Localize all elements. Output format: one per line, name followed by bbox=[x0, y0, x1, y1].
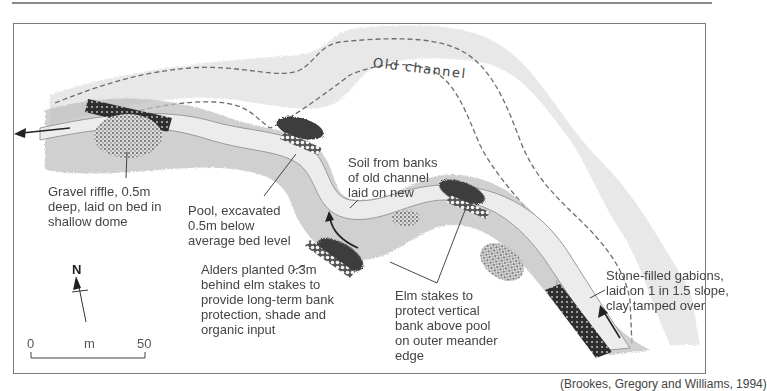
annotation-line: deep, laid on bed in bbox=[48, 199, 161, 214]
annotation-line: protection, shade and bbox=[201, 307, 334, 322]
alders-annotation: Alders planted 0.3m behind elm stakes to… bbox=[201, 262, 334, 337]
annotation-line: organic input bbox=[201, 322, 334, 337]
gravel-riffle-mid bbox=[392, 210, 420, 226]
gravel-riffle-annotation: Gravel riffle, 0.5m deep, laid on bed in… bbox=[48, 184, 161, 229]
scale-end: 50 bbox=[137, 336, 151, 351]
annotation-line: 0.5m below bbox=[188, 218, 291, 233]
annotation-line: Gravel riffle, 0.5m bbox=[48, 184, 161, 199]
annotation-line: average bed level bbox=[188, 233, 291, 248]
elm-stakes-annotation: Elm stakes to protect vertical bank abov… bbox=[395, 288, 498, 363]
annotation-line: Elm stakes to bbox=[395, 288, 498, 303]
annotation-line: Pool, excavated bbox=[188, 203, 291, 218]
north-arrowhead bbox=[73, 276, 81, 290]
annotation-line: Soil from banks bbox=[348, 155, 438, 170]
annotation-line: clay tamped over bbox=[606, 298, 729, 313]
annotation-line: shallow dome bbox=[48, 214, 161, 229]
scale-bar bbox=[31, 352, 145, 358]
annotation-line: Alders planted 0.3m bbox=[201, 262, 334, 277]
annotation-line: Stone-filled gabions, bbox=[606, 268, 729, 283]
annotation-line: protect vertical bbox=[395, 303, 498, 318]
annotation-line: laid on 1 in 1.5 slope, bbox=[606, 283, 729, 298]
annotation-line: behind elm stakes to bbox=[201, 277, 334, 292]
gravel-riffle-west bbox=[94, 114, 162, 158]
figure-caption-fragment: (Brookes, Gregory and Williams, 1994) bbox=[560, 377, 767, 391]
north-label: N bbox=[72, 262, 81, 277]
scale-unit: m bbox=[84, 336, 95, 351]
annotation-line: of old channel bbox=[348, 170, 438, 185]
annotation-line: laid on new bbox=[348, 185, 438, 200]
scale-start: 0 bbox=[27, 336, 34, 351]
annotation-line: edge bbox=[395, 348, 498, 363]
annotation-line: bank above pool bbox=[395, 318, 498, 333]
annotation-line: provide long-term bank bbox=[201, 292, 334, 307]
annotation-line: on outer meander bbox=[395, 333, 498, 348]
pool-annotation: Pool, excavated 0.5m below average bed l… bbox=[188, 203, 291, 248]
soil-annotation: Soil from banks of old channel laid on n… bbox=[348, 155, 438, 200]
gabions-annotation: Stone-filled gabions, laid on 1 in 1.5 s… bbox=[606, 268, 729, 313]
